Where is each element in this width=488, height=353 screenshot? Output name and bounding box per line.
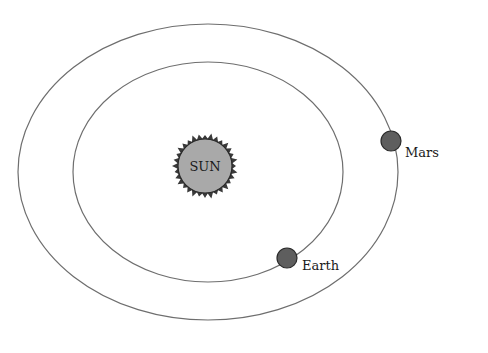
sun-label: SUN <box>189 159 220 174</box>
sun: SUN <box>172 134 237 199</box>
mars: Mars <box>381 131 439 160</box>
earth-planet-icon <box>277 248 297 268</box>
orbit-diagram: SUN Earth Mars <box>0 0 488 353</box>
mars-label: Mars <box>405 145 439 160</box>
earth: Earth <box>277 248 340 273</box>
earth-label: Earth <box>302 258 340 273</box>
orbit-diagram-canvas: SUN Earth Mars <box>0 0 488 353</box>
mars-planet-icon <box>381 131 401 151</box>
